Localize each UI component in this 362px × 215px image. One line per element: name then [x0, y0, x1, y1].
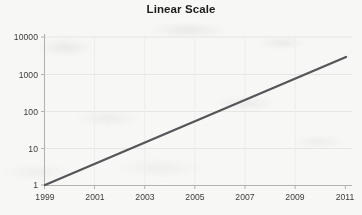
x-tick-label-2009: 2009 [285, 192, 304, 202]
x-tick-label-2003: 2003 [135, 192, 154, 202]
y-tick-label-1: 1 [2, 180, 38, 190]
y-tick-label-10000: 10000 [2, 32, 38, 42]
x-tick-label-2007: 2007 [235, 192, 254, 202]
y-tick-label-10: 10 [2, 144, 38, 154]
x-tick-label-1999: 1999 [35, 192, 54, 202]
plot-area [0, 0, 362, 215]
grid-vertical [95, 35, 296, 185]
x-tick-label-2001: 2001 [85, 192, 104, 202]
x-tick-label-2011: 2011 [336, 192, 355, 202]
grid-horizontal [44, 37, 352, 149]
data-series-line [45, 57, 346, 185]
y-tick-label-1000: 1000 [2, 70, 38, 80]
x-tick-label-2005: 2005 [185, 192, 204, 202]
y-axis-ticks [41, 37, 44, 185]
y-tick-label-100: 100 [2, 107, 38, 117]
chart-figure: Linear Scale [0, 0, 362, 215]
